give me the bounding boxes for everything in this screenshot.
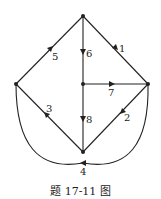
edge-label-8: 8 <box>86 114 92 125</box>
edge-label-3: 3 <box>46 103 52 114</box>
node-left <box>14 82 18 86</box>
edge-3 <box>16 84 83 152</box>
node-right <box>146 82 150 86</box>
node-top <box>81 14 85 18</box>
edge-label-4: 4 <box>80 166 86 177</box>
edge-label-5: 5 <box>52 51 58 62</box>
edge-1 <box>83 16 148 84</box>
edge-label-1: 1 <box>119 43 125 54</box>
figure-caption: 题 17-11 图 <box>0 182 161 198</box>
graph-diagram: 1 2 3 4 5 6 7 8 <box>0 0 161 199</box>
node-bottom <box>81 150 85 154</box>
edge-label-6: 6 <box>86 48 92 59</box>
node-center <box>81 82 85 86</box>
edge-label-2: 2 <box>124 112 130 123</box>
edge-label-7: 7 <box>108 87 114 98</box>
